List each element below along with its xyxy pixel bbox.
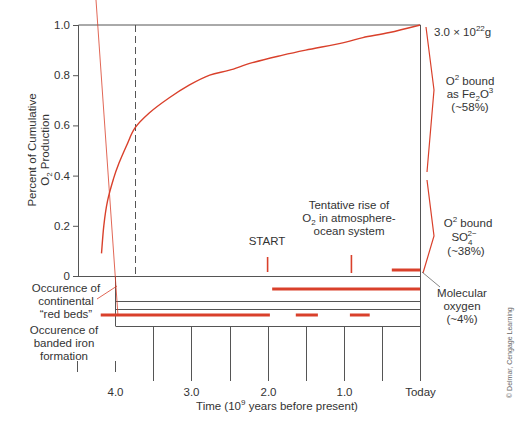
row-label-banded-iron: Occurence of banded iron formation xyxy=(30,324,99,362)
x-axis-label: Time (109 years before present) xyxy=(196,398,358,412)
svg-text:(~38%): (~38%) xyxy=(447,245,485,257)
molecular-oxygen-leader xyxy=(422,272,440,287)
y-tick-label: 0.8 xyxy=(54,69,70,81)
so4-label: O2 bound SO42− (~38%) xyxy=(444,215,493,257)
svg-text:continental: continental xyxy=(38,295,94,307)
x-tick-label: 3.0 xyxy=(184,386,200,398)
y-tick-label: 1.0 xyxy=(54,19,70,31)
tentative-rise-label: Tentative rise of O2 in atmosphere- ocea… xyxy=(302,199,395,237)
y-tick-label: 0.4 xyxy=(54,170,71,182)
credit-text: © Delmar, Cengage Learning xyxy=(506,307,514,398)
fe2o3-label: O2 bound as Fe2O3 (~58%) xyxy=(446,73,495,113)
right-braces xyxy=(423,27,434,273)
svg-text:oxygen: oxygen xyxy=(443,300,480,312)
svg-text:“red beds”: “red beds” xyxy=(40,308,93,320)
y-axis-label: Percent of Cumulative O2 Production xyxy=(26,93,54,206)
molecular-oxygen-label: Molecular oxygen (~4%) xyxy=(437,287,487,325)
svg-text:Occurence of: Occurence of xyxy=(32,282,101,294)
x-axis-ticks: 4.03.02.01.0Today xyxy=(78,326,437,398)
total-mass-label: 3.0 × 1022g xyxy=(434,24,491,38)
x-tick-label: Today xyxy=(405,386,436,398)
x-tick-label: 1.0 xyxy=(337,386,353,398)
y-tick-label: 0 xyxy=(64,270,70,282)
oxygen-production-chart: 00.20.40.60.81.0 4.03.02.01.0Today Perce… xyxy=(0,0,518,424)
svg-text:Molecular: Molecular xyxy=(437,287,487,299)
start-label: START xyxy=(249,235,286,247)
svg-text:Occurence of: Occurence of xyxy=(30,324,99,336)
row-label-red-beds: Occurence of continental “red beds” xyxy=(32,282,101,320)
svg-text:O2 bound: O2 bound xyxy=(446,73,495,87)
banded-iron-leader xyxy=(96,0,118,316)
svg-text:formation: formation xyxy=(40,350,88,362)
y-tick-label: 0.2 xyxy=(54,220,70,232)
svg-text:banded iron: banded iron xyxy=(34,337,95,349)
svg-text:ocean system: ocean system xyxy=(314,225,385,237)
svg-text:O2 bound: O2 bound xyxy=(444,215,493,229)
y-axis-label-line1: Percent of Cumulative xyxy=(26,93,38,206)
svg-text:(~58%): (~58%) xyxy=(451,101,489,113)
x-tick-label: 4.0 xyxy=(108,386,124,398)
y-axis-ticks: 00.20.40.60.81.0 xyxy=(54,19,78,282)
svg-text:Tentative rise of: Tentative rise of xyxy=(309,199,390,211)
svg-text:(~4%): (~4%) xyxy=(447,313,478,325)
y-axis-label-line2: O2 Production xyxy=(39,114,54,186)
x-tick-label: 2.0 xyxy=(261,386,277,398)
y-tick-label: 0.6 xyxy=(54,119,70,131)
